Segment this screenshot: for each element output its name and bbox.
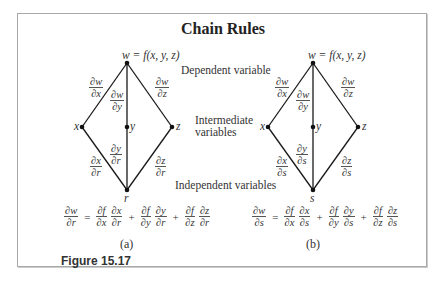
diagram-a-node-y: y [130, 120, 135, 132]
diagram-b-node-x: x [260, 120, 265, 132]
diagram-b-edge-dy-ds: ∂y∂s [296, 143, 308, 166]
intermediate-variables-label-line2: variables [195, 126, 237, 138]
diagram-b-node-z: z [362, 120, 366, 132]
diagram-b-edge-dz-ds: ∂z∂s [341, 155, 352, 178]
diagram-b-edge-dw-dz: ∂w∂z [341, 76, 355, 99]
diagram-a-edge-dw-dz: ∂w∂z [155, 76, 169, 99]
formula-a-lhs: ∂w∂r [64, 205, 78, 228]
diagram-a-edge-dw-dx: ∂w∂x [89, 76, 103, 99]
figure-number: Figure 15.17 [61, 254, 131, 268]
diagram-a-edge-dx-dr: ∂x∂r [90, 155, 102, 178]
independent-variables-label: Independent variables [175, 179, 276, 191]
intermediate-variables-label-line1: Intermediate [195, 114, 253, 126]
formula-b-lhs: ∂w∂s [252, 205, 266, 228]
diagram-a-edge-dz-dr: ∂z∂r [155, 155, 166, 178]
caption-b: (b) [306, 237, 320, 252]
diagram-b-edge-dx-ds: ∂x∂s [276, 155, 288, 178]
diagram-b-edge-dw-dx: ∂w∂x [275, 76, 289, 99]
diagram-b-edge-dw-dy: ∂w∂y [296, 89, 310, 112]
diagram-a-top-label: w = f(x, y, z) [122, 49, 180, 61]
diagram-a-node-z: z [176, 120, 180, 132]
dependent-variable-label: Dependent variable [181, 64, 271, 76]
diagram-a-node-r: r [124, 192, 128, 204]
diagram-b-top-label: w = f(x, y, z) [308, 49, 366, 61]
diagram-a-edge-dy-dr: ∂y∂r [110, 143, 122, 166]
diagram-b-node-s: s [310, 192, 314, 204]
diagram-a-edge-dw-dy: ∂w∂y [110, 89, 124, 112]
diagram-b-node-y: y [316, 120, 321, 132]
formula-b: ∂w∂s = ∂f∂x ∂x∂s + ∂f∂y ∂y∂s + ∂f∂z ∂z∂s [250, 205, 400, 228]
caption-a: (a) [120, 237, 133, 252]
formula-a: ∂w∂r = ∂f∂x ∂x∂r + ∂f∂y ∂y∂r + ∂f∂z ∂z∂r [62, 205, 212, 228]
diagram-a-node-x: x [74, 120, 79, 132]
